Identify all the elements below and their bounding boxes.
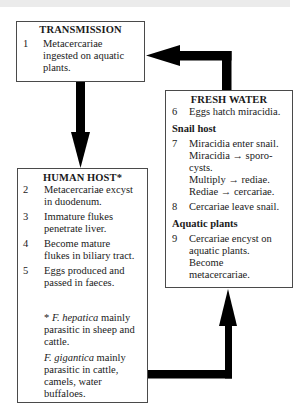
step-text: Miracidia enter snail. <box>189 138 292 150</box>
step-number: 6 <box>172 106 177 118</box>
step-text: in duodenum. <box>44 196 147 208</box>
step-number: 8 <box>172 201 177 213</box>
step-number: 9 <box>172 233 177 245</box>
section-heading-aquatic-plants: Aquatic plants <box>172 218 292 230</box>
step-item: 5 Eggs produced and passed in faeces. <box>23 265 147 289</box>
transmission-box: TRANSMISSION 1 Metacercariae ingested on… <box>16 21 145 82</box>
step-text: flukes in biliary tract. <box>44 250 147 262</box>
step-text: Cercariae encyst on <box>189 233 292 245</box>
step-number: 3 <box>23 211 28 223</box>
step-number: 5 <box>23 265 28 277</box>
step-text: Cercariae leave snail. <box>189 201 292 213</box>
step-text: ingested on aquatic <box>43 50 144 62</box>
step-item: 4 Become mature flukes in biliary tract. <box>23 238 147 262</box>
section-heading-snail-host: Snail host <box>172 123 292 135</box>
footnote-first-line: * F. hepatica mainly <box>44 312 147 324</box>
footnote-text: cattle. <box>44 336 147 348</box>
footnote-f-hepatica: * F. hepatica mainly parasitic in sheep … <box>44 312 147 348</box>
footnote-text: camels, water <box>44 376 147 388</box>
step-text: passed in faeces. <box>44 277 147 289</box>
step-text: Metacercariae excyst <box>44 184 147 196</box>
step-text: penetrate liver. <box>44 223 147 235</box>
step-item: 7 Miracidia enter snail. Miracidia → spo… <box>172 138 292 198</box>
step-number: 1 <box>23 38 28 50</box>
human-host-box: HUMAN HOST* 2 Metacercariae excyst in du… <box>17 168 148 403</box>
step-text: Immature flukes <box>44 211 147 223</box>
step-item: 8 Cercariae leave snail. <box>172 201 292 213</box>
fresh-water-title: FRESH WATER <box>172 94 292 106</box>
step-number: 2 <box>23 184 28 196</box>
transmission-title: TRANSMISSION <box>23 24 144 36</box>
step-item: 6 Eggs hatch miracidia. <box>172 106 292 118</box>
footnote-text: mainly <box>94 352 126 363</box>
step-text: plants. <box>43 62 144 74</box>
step-text: Eggs hatch miracidia. <box>189 106 292 118</box>
step-text: Become mature <box>44 238 147 250</box>
arrow-transmission-to-human-host <box>71 82 90 168</box>
footnote-text: buffaloes. <box>44 388 147 400</box>
step-text: Metacercariae <box>43 38 144 50</box>
step-text: aquatic plants. <box>189 245 292 257</box>
arrow-human-host-to-fresh-water <box>147 289 237 379</box>
step-item: 3 Immature flukes penetrate liver. <box>23 211 147 235</box>
arrow-fresh-water-to-transmission <box>146 45 232 91</box>
step-number: 7 <box>172 138 177 150</box>
footnote-f-gigantica: F. gigantica mainly parasitic in cattle,… <box>44 352 147 400</box>
step-item: 2 Metacercariae excyst in duodenum. <box>23 184 147 208</box>
step-text: Rediae → cercariae. <box>189 186 292 198</box>
step-text: Eggs produced and <box>44 265 147 277</box>
footnote-text: parasitic in sheep and <box>44 324 147 336</box>
step-text: Become <box>189 257 292 269</box>
step-text: cysts. <box>189 162 292 174</box>
step-number: 4 <box>23 238 28 250</box>
species-name: F. hepatica <box>52 312 98 323</box>
human-host-title: HUMAN HOST* <box>23 172 147 184</box>
footnote-text: parasitic in cattle, <box>44 364 147 376</box>
footnote-marker: * <box>44 312 52 323</box>
step-item: 9 Cercariae encyst on aquatic plants. Be… <box>172 233 292 281</box>
footnote-first-line: F. gigantica mainly <box>44 352 147 364</box>
fresh-water-box: FRESH WATER 6 Eggs hatch miracidia. Snai… <box>165 90 293 288</box>
step-text: metacercariae. <box>189 269 292 281</box>
step-text: Miracidia → sporo- <box>189 150 292 162</box>
footnote-text: mainly <box>98 312 130 323</box>
step-item: 1 Metacercariae ingested on aquatic plan… <box>23 38 144 74</box>
step-text: Multiply → rediae. <box>189 174 292 186</box>
species-name: F. gigantica <box>44 352 94 363</box>
species-footnotes: * F. hepatica mainly parasitic in sheep … <box>23 312 147 400</box>
